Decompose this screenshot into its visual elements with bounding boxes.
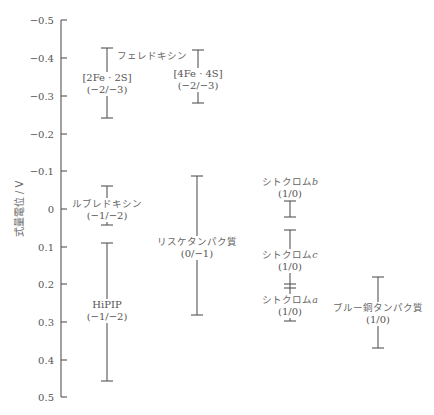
cyta-name: シトクロム <box>262 294 312 305</box>
label-hipip-couple: (−1/−2) <box>86 311 129 323</box>
cytc-letter: c <box>312 249 317 260</box>
label-cytochrome-c: シトクロムc <box>261 249 318 261</box>
y-tick-label: −0.4 <box>20 53 54 64</box>
label-hipip: HiPIP <box>91 299 122 311</box>
label-blue-copper-couple: (1/0) <box>365 314 391 326</box>
label-rubredoxin: ルブレドキシン <box>71 198 143 210</box>
y-tick-label: 0.1 <box>20 242 54 253</box>
label-2fe2s: [2Fe · 2S] <box>81 72 132 84</box>
y-axis-label: 式量電位 / V <box>11 181 26 238</box>
label-4fe4s-couple: (−2/−3) <box>177 80 220 92</box>
potential-chart <box>0 0 434 415</box>
label-cytochrome-b: シトクロムb <box>261 176 319 188</box>
y-tick-label: −0.5 <box>20 15 54 26</box>
cytb-letter: b <box>312 176 318 187</box>
label-cytochrome-a: シトクロムa <box>261 294 319 306</box>
label-rieske-couple: (0/−1) <box>180 248 214 260</box>
label-cytochrome-a-couple: (1/0) <box>277 306 303 318</box>
label-cytochrome-c-couple: (1/0) <box>277 261 303 273</box>
y-tick-label: 0.4 <box>20 355 54 366</box>
label-rubredoxin-couple: (−1/−2) <box>86 210 129 222</box>
label-ferredoxin: フェレドキシン <box>116 50 188 62</box>
y-tick-label: 0.3 <box>20 317 54 328</box>
y-axis-ticks <box>61 20 67 397</box>
y-tick-label: 0.2 <box>20 279 54 290</box>
cytc-name: シトクロム <box>262 249 312 260</box>
y-tick-label: 0.5 <box>20 392 54 403</box>
bar-cytb <box>284 201 296 217</box>
cytb-name: シトクロム <box>262 176 312 187</box>
y-tick-label: −0.1 <box>20 166 54 177</box>
label-2fe2s-couple: (−2/−3) <box>86 84 129 96</box>
label-blue-copper: ブルー銅タンパク質 <box>332 302 424 314</box>
label-cytochrome-b-couple: (1/0) <box>277 188 303 200</box>
label-rieske: リスケタンパク質 <box>156 236 238 248</box>
label-4fe4s: [4Fe · 4S] <box>172 68 223 80</box>
cyta-letter: a <box>312 294 318 305</box>
y-tick-label: −0.3 <box>20 91 54 102</box>
y-tick-label: −0.2 <box>20 129 54 140</box>
